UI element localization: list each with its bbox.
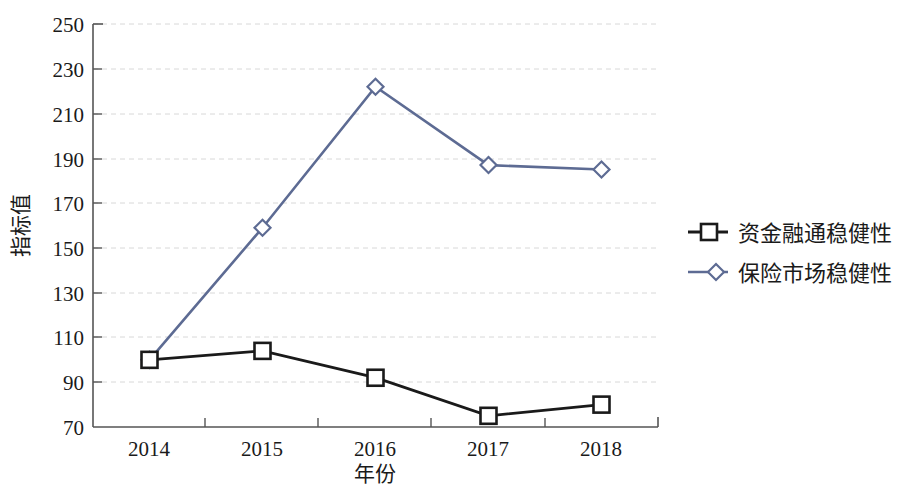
series-markers: [142, 79, 610, 368]
y-tick-label: 210: [53, 103, 85, 127]
series-capital-financing: [142, 343, 610, 424]
data-point-marker: [481, 408, 497, 424]
y-tick-label: 230: [53, 58, 85, 82]
legend: 资金融通稳健性 保险市场稳健性: [688, 221, 892, 286]
line-chart-figure: 250 230 210 190 170 150 130 110 90 70 20…: [0, 0, 897, 485]
y-tick-label: 90: [63, 371, 84, 395]
x-tick-label: 2014: [128, 437, 171, 461]
series-line: [150, 87, 602, 360]
diamond-marker-icon: [708, 264, 724, 280]
y-tick-label: 130: [53, 282, 85, 306]
x-tick-label: 2018: [580, 437, 622, 461]
data-point-marker: [368, 370, 384, 386]
data-point-marker: [594, 397, 610, 413]
legend-item-capital-financing[interactable]: 资金融通稳健性: [688, 221, 892, 246]
y-tick-label: 150: [53, 237, 85, 261]
legend-label: 资金融通稳健性: [738, 221, 892, 246]
x-tick-label: 2015: [241, 437, 283, 461]
y-axis-ticks: [93, 69, 102, 382]
y-tick-labels: 250 230 210 190 170 150 130 110 90 70: [53, 13, 85, 440]
y-axis-title: 指标值: [9, 194, 33, 257]
x-tick-label: 2016: [354, 437, 396, 461]
y-tick-label: 170: [53, 192, 85, 216]
legend-item-insurance-market[interactable]: 保险市场稳健性: [688, 261, 892, 286]
y-tick-label: 70: [63, 416, 84, 440]
x-tick-labels: 2014 2015 2016 2017 2018: [128, 437, 622, 461]
y-tick-label: 190: [53, 148, 85, 172]
x-tick-label: 2017: [467, 437, 509, 461]
series-insurance-market: [142, 79, 610, 368]
square-marker-icon: [701, 224, 717, 240]
legend-label: 保险市场稳健性: [738, 261, 892, 286]
y-tick-label: 110: [53, 326, 84, 350]
x-axis-title: 年份: [354, 462, 396, 485]
data-point-marker: [594, 162, 610, 178]
data-point-marker: [255, 343, 271, 359]
chart-canvas: 250 230 210 190 170 150 130 110 90 70 20…: [0, 0, 897, 485]
y-tick-label: 250: [53, 13, 85, 37]
data-point-marker: [142, 352, 158, 368]
